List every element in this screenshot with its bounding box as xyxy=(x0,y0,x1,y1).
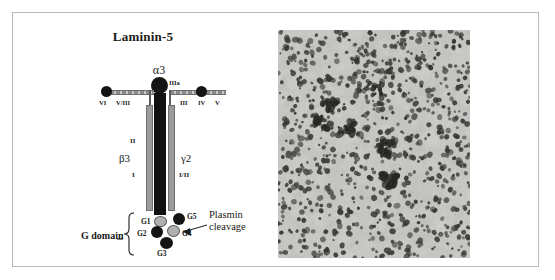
gamma2-chain-label: γ2 xyxy=(181,152,191,164)
plasmin-line-1: Plasmin xyxy=(209,209,246,221)
alpha3-rod xyxy=(154,93,166,215)
beta3-arm-terminal-globule xyxy=(101,86,112,97)
domain-label-right-3: V xyxy=(215,99,220,106)
globule-label-G2: G2 xyxy=(137,229,147,238)
alpha3-chain-label: α3 xyxy=(139,63,179,78)
globule-label-G1: G1 xyxy=(141,217,151,226)
domain-label-left-2: V/III xyxy=(116,99,130,106)
domain-label-right-1: III xyxy=(180,99,188,106)
globule-G3 xyxy=(160,237,173,249)
domain-label-left-1: VI xyxy=(99,99,106,106)
plasmin-line-2: cleavage xyxy=(209,221,246,233)
tissue-micrograph-panel xyxy=(278,30,470,258)
beta3-domain-label-II: II xyxy=(130,137,135,145)
globule-label-G3: G3 xyxy=(157,249,167,258)
beta3-chain-label: β3 xyxy=(119,152,130,164)
g-domain-label: G domain xyxy=(81,230,124,241)
beta3-domain-label-I: I xyxy=(132,171,135,179)
globule-G5 xyxy=(173,213,185,225)
globule-label-G4: G4 xyxy=(182,229,192,238)
figure-root: Laminin-5 α3 IIIa VI V/III III IV V II I… xyxy=(0,0,555,280)
gamma2-arm-globule xyxy=(196,86,207,97)
globule-G4 xyxy=(167,225,180,237)
globule-G2 xyxy=(151,226,163,238)
plasmin-cleavage-annotation: Plasmin cleavage xyxy=(209,209,246,233)
gamma2-rod xyxy=(168,105,175,211)
beta3-short-arm xyxy=(110,90,154,95)
micrograph-image xyxy=(278,30,470,258)
panel-title: Laminin-5 xyxy=(13,29,273,45)
globule-label-G5: G5 xyxy=(187,212,197,221)
gamma2-domain-label: I/II xyxy=(179,171,189,179)
laminin-5-schematic-panel: Laminin-5 α3 IIIa VI V/III III IV V II I… xyxy=(13,13,273,266)
domain-label-right-2: IV xyxy=(198,99,205,106)
domain-label-IIIa: IIIa xyxy=(169,79,180,86)
beta3-rod xyxy=(146,105,153,211)
